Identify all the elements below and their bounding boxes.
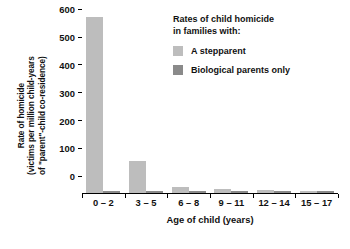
y-axis-title-line-3: of "parent"-child co-residence) — [37, 21, 47, 211]
y-axis-tick: 500 — [59, 28, 82, 46]
x-axis-category-label: 0 – 2 — [82, 197, 125, 208]
bar-group — [125, 12, 168, 193]
legend: Rates of child homicide in families with… — [173, 14, 343, 84]
y-axis-tick-label: 0 — [70, 171, 78, 182]
x-axis-category-label: 12 – 14 — [253, 197, 296, 208]
bar-group — [82, 12, 125, 193]
bar[interactable] — [129, 161, 146, 193]
y-axis-tick-label: 100 — [59, 143, 78, 154]
x-axis-category-label: 6 – 8 — [167, 197, 210, 208]
y-axis-tick: 0 — [70, 167, 82, 185]
legend-item[interactable]: Biological parents only — [173, 65, 343, 75]
x-axis-category-label: 15 – 17 — [295, 197, 338, 208]
y-axis-title-line-1: Rate of homicide — [16, 21, 26, 211]
y-axis-tick-label: 400 — [59, 60, 78, 71]
y-axis-tick-label: 500 — [59, 32, 78, 43]
legend-title: Rates of child homicide in families with… — [173, 14, 343, 37]
bar-chart: Rate of homicide (victims per million ch… — [0, 0, 350, 249]
legend-title-line-2: in families with: — [173, 26, 343, 38]
legend-items: A stepparentBiological parents only — [173, 46, 343, 75]
y-axis-tick-label: 600 — [59, 4, 78, 15]
legend-item[interactable]: A stepparent — [173, 46, 343, 56]
y-axis-title-line-2: (victims per million child-years — [27, 21, 37, 211]
x-axis-category-labels: 0 – 23 – 56 – 89 – 1112 – 1415 – 17 — [82, 197, 338, 208]
x-axis-category-label: 3 – 5 — [125, 197, 168, 208]
y-axis-tick: 300 — [59, 83, 82, 101]
legend-swatch-icon — [173, 65, 183, 75]
y-axis-tick: 600 — [59, 0, 82, 18]
bar[interactable] — [86, 17, 103, 193]
legend-swatch-icon — [173, 46, 183, 56]
x-axis-title: Age of child (years) — [82, 214, 338, 225]
y-axis-tick: 200 — [59, 111, 82, 129]
legend-title-line-1: Rates of child homicide — [173, 14, 343, 26]
y-axis-tick: 100 — [59, 139, 82, 157]
y-axis-title: Rate of homicide (victims per million ch… — [16, 21, 47, 211]
y-axis-tick-label: 200 — [59, 116, 78, 127]
x-axis-category-label: 9 – 11 — [210, 197, 253, 208]
legend-item-label: Biological parents only — [191, 65, 290, 75]
y-axis-tick-label: 300 — [59, 88, 78, 99]
y-axis-tick: 400 — [59, 56, 82, 74]
legend-item-label: A stepparent — [191, 46, 246, 56]
x-axis-tick-mark — [338, 194, 339, 198]
y-axis-tick-mark — [78, 9, 82, 10]
